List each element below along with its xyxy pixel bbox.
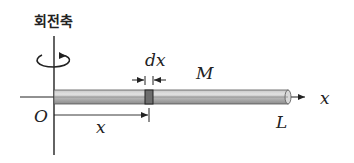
dx-label: dx [145,50,166,70]
mass-label: M [195,63,214,83]
rotating-rod-diagram: 회전축 dx M x O x L [0,0,354,163]
mass-element-dx [145,90,153,104]
position-x-label: x [96,117,106,137]
rotation-axis-label: 회전축 [34,13,73,29]
x-axis-label: x [320,88,330,108]
length-label: L [275,112,287,132]
origin-label: O [34,106,48,126]
dx-width-arrows [132,76,166,85]
rod [54,90,291,104]
